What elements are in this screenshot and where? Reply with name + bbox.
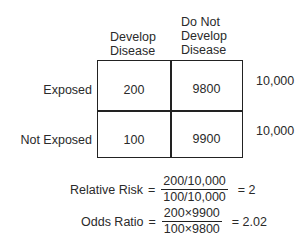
result: = 2.02 [232,215,267,229]
fraction: 200×9900 100×9800 [162,207,222,236]
cell-exposed-disease: 200 [98,83,170,97]
formula-label: Relative Risk [70,183,143,197]
cell-exposed-no-disease: 9800 [171,82,242,96]
row-total-not-exposed: 10,000 [256,124,294,138]
odds-ratio-formula: Odds Ratio = 200×9900 100×9800 = 2.02 [81,207,267,236]
equals-sign: = [149,215,156,229]
header-line: Disease [110,44,156,58]
column-header-develop-disease: Develop Disease [110,30,156,58]
relative-risk-formula: Relative Risk = 200/10,000 100/10,000 = … [70,175,256,204]
cell-not-exposed-disease: 100 [98,133,170,147]
cell-not-exposed-no-disease: 9900 [171,132,242,146]
equals-sign: = [148,183,155,197]
numerator: 200×9900 [162,207,222,222]
header-line: Develop [181,29,227,43]
contingency-table: 200 9800 100 9900 [97,60,243,158]
row-label-exposed: Exposed [0,83,92,97]
denominator: 100/10,000 [161,190,228,204]
row-total-exposed: 10,000 [256,74,294,88]
header-line: Develop [110,30,156,44]
row-divider [98,110,242,112]
numerator: 200/10,000 [161,175,228,190]
header-line: Do Not [181,15,227,29]
row-label-not-exposed: Not Exposed [0,133,92,147]
denominator: 100×9800 [162,222,222,236]
fraction: 200/10,000 100/10,000 [161,175,228,204]
result: = 2 [238,183,256,197]
header-line: Disease [181,43,227,57]
formula-label: Odds Ratio [81,215,144,229]
column-header-do-not-develop-disease: Do Not Develop Disease [181,15,227,57]
